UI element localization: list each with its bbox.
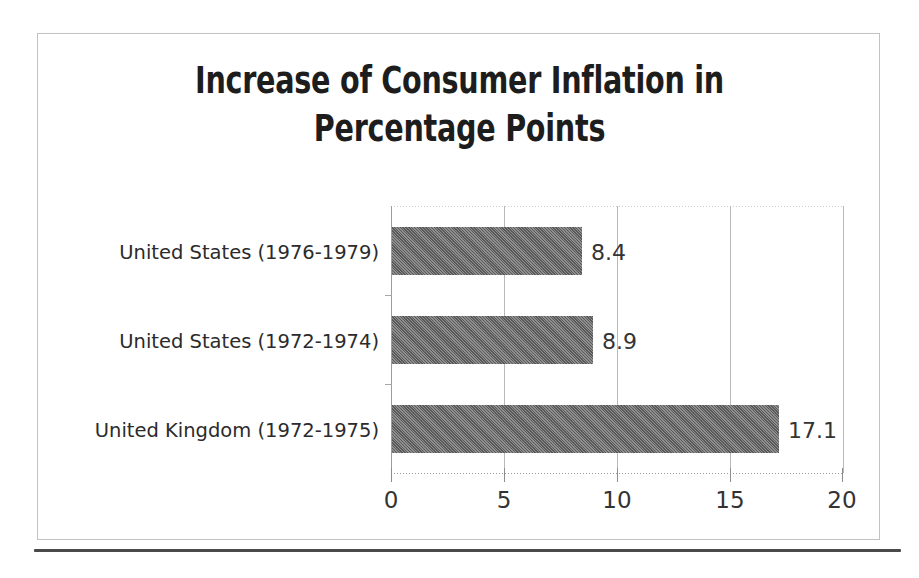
- category-label-wrap-0: United States (1976-1979): [50, 243, 379, 263]
- category-label-2: United Kingdom (1972-1975): [95, 419, 379, 442]
- chart-frame: Increase of Consumer Inflation in Percen…: [37, 33, 880, 540]
- xtick-mark-10: [617, 468, 618, 482]
- bar-0[interactable]: [392, 227, 582, 275]
- bar-value-label-2: 17.1: [788, 420, 837, 442]
- xtick-mark-20: [842, 468, 843, 482]
- category-label-wrap-1: United States (1972-1974): [50, 332, 379, 352]
- xtick-label-10: 10: [602, 489, 631, 512]
- xtick-label-5: 5: [497, 489, 512, 512]
- gridline-20: [843, 206, 844, 473]
- xtick-mark-15: [730, 468, 731, 482]
- xtick-label-0: 0: [384, 489, 399, 512]
- bar-1[interactable]: [392, 316, 593, 364]
- category-tick-2: [385, 384, 392, 385]
- plot-area: 8.4 United States (1976-1979) 8.9 United…: [391, 206, 843, 473]
- category-label-0: United States (1976-1979): [119, 241, 379, 264]
- bar-value-label-0: 8.4: [591, 242, 626, 264]
- xtick-mark-5: [504, 468, 505, 482]
- bar-value-label-1: 8.9: [602, 331, 637, 353]
- bar-2[interactable]: [392, 405, 779, 453]
- category-tick-1: [385, 295, 392, 296]
- chart-title: Increase of Consumer Inflation in Percen…: [97, 57, 822, 153]
- category-label-wrap-2: United Kingdom (1972-1975): [50, 421, 379, 441]
- category-label-1: United States (1972-1974): [119, 330, 379, 353]
- page-horizontal-rule: [34, 549, 901, 552]
- xtick-label-15: 15: [715, 489, 744, 512]
- xtick-mark-0: [391, 468, 392, 482]
- xtick-label-20: 20: [827, 489, 856, 512]
- chart-page: Increase of Consumer Inflation in Percen…: [0, 0, 919, 578]
